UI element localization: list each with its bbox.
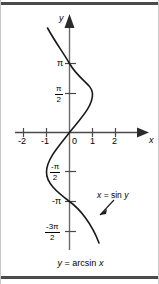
x-axis-arrowhead <box>137 128 149 138</box>
annotation-arrow <box>100 200 114 215</box>
annotation-operator: = sin <box>104 190 122 200</box>
y-tick-neg-pi-over-2-numerator: -π <box>50 163 60 173</box>
y-axis-label: y <box>59 14 64 23</box>
y-axis-arrowhead <box>65 14 75 28</box>
y-tick-label-neg-3pi-over-2: -3π 2 <box>45 223 60 242</box>
y-tick-label-neg-pi-over-2: -π 2 <box>50 163 60 182</box>
y-tick-label-pi-over-2: π 2 <box>55 85 63 104</box>
x-tick-label-zero: 0 <box>72 137 77 146</box>
x-axis-label: x <box>149 136 154 145</box>
figure-caption: y = arcsin x <box>1 258 159 268</box>
figure-container: y x -2 -1 0 1 2 π π 2 -π 2 -π -3π 2 x = … <box>0 0 159 284</box>
y-tick-neg-3pi-over-2-numerator: -3π <box>45 223 60 233</box>
annotation-variable-y: y <box>124 190 128 200</box>
caption-variable-x: x <box>99 258 104 268</box>
y-tick-neg-3pi-over-2-denominator: 2 <box>45 233 60 242</box>
x-tick-label-neg1: -1 <box>41 137 49 146</box>
y-tick-label-neg-pi: -π <box>52 197 61 206</box>
y-tick-neg-pi-over-2-denominator: 2 <box>50 173 60 182</box>
y-tick-label-pi: π <box>57 59 63 68</box>
caption-operator: = arcsin <box>65 258 97 268</box>
y-tick-pi-over-2-denominator: 2 <box>55 95 63 104</box>
x-tick-label-two: 2 <box>112 137 117 146</box>
y-tick-pi-over-2-numerator: π <box>55 85 63 95</box>
x-tick-label-one: 1 <box>90 137 95 146</box>
x-tick-label-neg2: -2 <box>18 137 26 146</box>
curve-annotation-label: x = sin y <box>97 190 128 200</box>
